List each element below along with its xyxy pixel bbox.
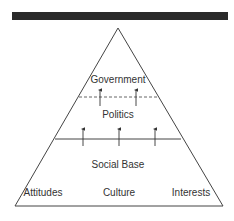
component-culture: Culture <box>103 187 135 198</box>
level-government: Government <box>90 74 145 85</box>
level-politics: Politics <box>102 109 134 120</box>
level-social-base: Social Base <box>92 159 145 170</box>
component-interests: Interests <box>172 187 210 198</box>
component-attitudes: Attitudes <box>24 187 63 198</box>
